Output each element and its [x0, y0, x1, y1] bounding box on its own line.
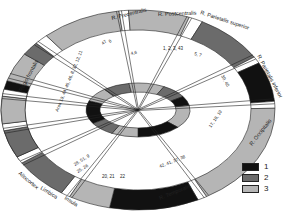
legend-label-3: 3	[264, 184, 268, 194]
legend-swatch-2	[242, 174, 259, 182]
area-label: Area 10, 44, 45, 46, 8, 32, 12, 11	[54, 49, 83, 112]
legend-swatch-1	[242, 163, 259, 171]
legend: 1 2 3	[242, 162, 268, 195]
area-label: 22	[120, 174, 126, 179]
region-label: R. Postcentralis	[158, 10, 197, 17]
legend-item-1: 1	[242, 162, 268, 172]
legend-item-3: 3	[242, 184, 268, 194]
inner-ring-segment-7	[138, 122, 178, 137]
legend-item-2: 2	[242, 173, 268, 183]
area-label: 5, 7	[194, 51, 203, 58]
outer-ring	[1, 10, 275, 210]
legend-label-1: 1	[264, 162, 268, 172]
inner-ring	[86, 83, 190, 137]
area-label: 17, 18, 19	[208, 109, 224, 129]
legend-swatch-3	[242, 185, 259, 193]
spoke-line-0	[35, 45, 138, 110]
area-label: 20, 21	[102, 174, 115, 179]
legend-label-2: 2	[264, 173, 268, 183]
area-label: 1, 2, 3, 43	[163, 46, 184, 51]
area-label: 4,6	[130, 50, 138, 56]
area-label: 6	[107, 38, 113, 44]
area-label: 39, 40	[220, 74, 231, 88]
spoke-line-3	[138, 55, 253, 110]
